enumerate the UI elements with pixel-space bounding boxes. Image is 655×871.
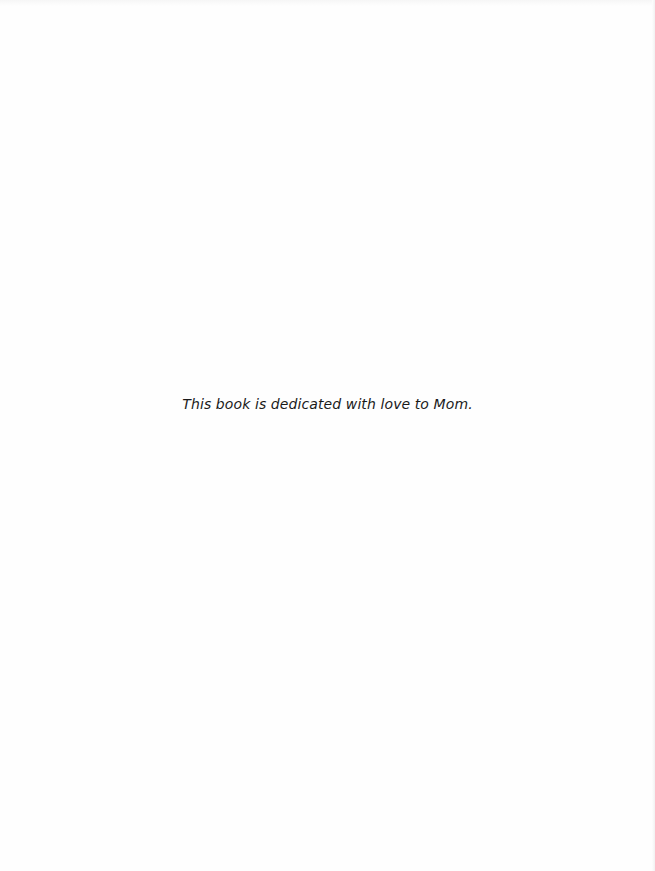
dedication-text: This book is dedicated with love to Mom. xyxy=(0,396,655,412)
scan-bleed-top xyxy=(0,0,655,6)
book-page: This book is dedicated with love to Mom. xyxy=(0,0,655,871)
